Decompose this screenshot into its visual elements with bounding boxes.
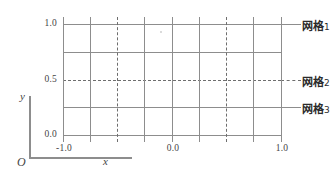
vline-x-0.75 bbox=[253, 17, 254, 142]
raster-artifact-dot bbox=[160, 31, 162, 33]
vline-x-0.0 bbox=[172, 17, 173, 142]
y-tick-label-0.0: 0.0 bbox=[31, 129, 57, 139]
x-tick-label-0.0: 0.0 bbox=[157, 143, 189, 153]
series-label-grid-1-index: 1 bbox=[324, 22, 330, 32]
y-tick-label-0.5: 0.5 bbox=[31, 74, 57, 84]
leader-line-series-1 bbox=[281, 24, 301, 25]
vline-x--0.75 bbox=[90, 17, 91, 142]
series-label-grid-3-name: 网格 bbox=[302, 103, 324, 116]
y-axis-line bbox=[29, 96, 31, 158]
x-axis-line bbox=[29, 157, 132, 159]
leader-line-series-2 bbox=[281, 80, 301, 81]
vline-x--0.5-dashed bbox=[117, 17, 118, 142]
series-label-grid-1-name: 网格 bbox=[302, 20, 324, 33]
leader-line-series-3 bbox=[281, 107, 301, 108]
grid-figure: 1.0 0.5 0.0 -1.0 0.0 1.0 y x O 网格1 网格2 网… bbox=[0, 0, 335, 177]
y-tick-label-1.0: 1.0 bbox=[31, 18, 57, 28]
series-label-grid-1: 网格1 bbox=[302, 17, 330, 33]
series-label-grid-2-name: 网格 bbox=[302, 76, 324, 89]
vline-x-0.25 bbox=[199, 17, 200, 142]
series-label-grid-3-index: 3 bbox=[324, 105, 330, 115]
x-tick-label--1.0: -1.0 bbox=[48, 143, 80, 153]
vline-x--1.0 bbox=[63, 17, 64, 142]
series-label-grid-2-index: 2 bbox=[324, 78, 330, 88]
x-tick-label-1.0: 1.0 bbox=[266, 143, 298, 153]
origin-label: O bbox=[17, 155, 26, 170]
y-axis-label: y bbox=[20, 90, 25, 102]
series-label-grid-2: 网格2 bbox=[302, 73, 330, 89]
vline-x-0.5-dashed bbox=[226, 17, 227, 142]
x-axis-label: x bbox=[103, 155, 108, 167]
vline-x--0.25 bbox=[144, 17, 145, 142]
series-label-grid-3: 网格3 bbox=[302, 100, 330, 116]
vline-x-1.0 bbox=[281, 17, 282, 142]
